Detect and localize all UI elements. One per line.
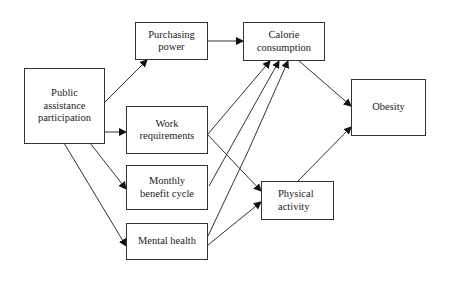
edge-calorie-to-obesity: [298, 60, 351, 106]
node-label-line: benefit cycle: [140, 188, 194, 201]
node-label-line: Obesity: [372, 101, 405, 114]
node-obesity: Obesity: [351, 79, 426, 136]
node-label-line: power: [148, 41, 195, 54]
edge-public-to-mental: [64, 143, 126, 246]
node-label-line: Public: [38, 87, 91, 100]
node-label-line: assistance: [38, 100, 91, 113]
node-label-line: Work: [140, 118, 195, 131]
node-label-line: Mental health: [138, 235, 196, 248]
edge-physical-to-obesity: [298, 127, 351, 181]
node-monthly-benefit-cycle: Monthlybenefit cycle: [126, 165, 208, 210]
node-label-line: activity: [278, 201, 314, 214]
node-physical-activity: Physicalactivity: [261, 181, 334, 220]
node-mental-health: Mental health: [126, 223, 208, 260]
node-calorie-consumption: Calorieconsumption: [243, 22, 325, 61]
node-public-assistance-participation: Publicassistanceparticipation: [24, 68, 105, 144]
node-label-line: Monthly: [140, 175, 194, 188]
edge-public-to-monthly: [90, 143, 126, 189]
node-label-line: Purchasing: [148, 29, 195, 42]
edge-work-to-physical: [208, 135, 261, 191]
node-work-requirements: Workrequirements: [126, 106, 208, 154]
edge-monthly-to-calorie: [209, 61, 279, 186]
node-label-line: consumption: [257, 42, 311, 55]
node-purchasing-power: Purchasingpower: [135, 22, 208, 60]
node-label-line: requirements: [140, 130, 195, 143]
edge-public-to-purchasing: [104, 60, 147, 103]
node-label-line: Calorie: [257, 29, 311, 42]
edge-mental-to-physical: [208, 202, 261, 245]
node-label-line: Physical: [278, 188, 314, 201]
node-label-line: participation: [38, 112, 91, 125]
